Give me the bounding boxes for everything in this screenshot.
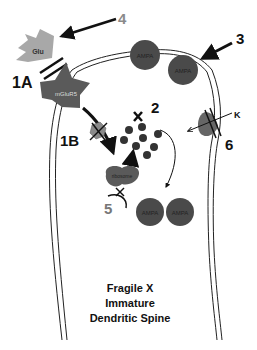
svg-text:AMPA: AMPA [142, 210, 159, 216]
svg-text:AMPA: AMPA [175, 68, 192, 74]
label-3: 3 [236, 30, 244, 47]
label-4: 4 [118, 10, 127, 27]
svg-text:AMPA: AMPA [137, 53, 154, 59]
potassium-channel [198, 108, 221, 138]
svg-text:ribosome: ribosome [112, 173, 133, 179]
caption-line-2: Immature [105, 297, 155, 309]
label-2: 2 [151, 99, 159, 116]
internal-ampa-2: AMPA [166, 198, 194, 226]
blocked-component-1b [90, 122, 107, 140]
caption-line-3: Dendritic Spine [90, 312, 171, 324]
label-k: K [234, 110, 241, 120]
svg-text:AMPA: AMPA [172, 210, 189, 216]
label-6: 6 [225, 136, 233, 153]
caption: Fragile X Immature Dendritic Spine [90, 282, 171, 324]
internal-ampa-1: AMPA [136, 198, 164, 226]
caption-line-1: Fragile X [107, 282, 154, 294]
ribosome: ribosome [106, 166, 139, 186]
label-1a: 1A [12, 74, 33, 91]
ampa-receptor-2: AMPA [168, 55, 198, 85]
glutamate: Glu [16, 29, 54, 62]
trafficking-arrow [160, 130, 175, 187]
protein-cluster [120, 123, 162, 159]
svg-text:Glu: Glu [32, 48, 44, 55]
arrow-3 [203, 43, 232, 58]
arrow-4 [62, 19, 116, 36]
fragile-x-diagram: AMPA AMPA 3 4 Glu 1A mGluR5 1B 2 [0, 0, 257, 350]
fmrp-absent-marker [134, 112, 142, 121]
label-1b: 1B [60, 132, 79, 149]
ampa-receptor-1: AMPA [130, 40, 160, 70]
svg-text:mGluR5: mGluR5 [55, 91, 78, 97]
label-5: 5 [104, 200, 112, 217]
